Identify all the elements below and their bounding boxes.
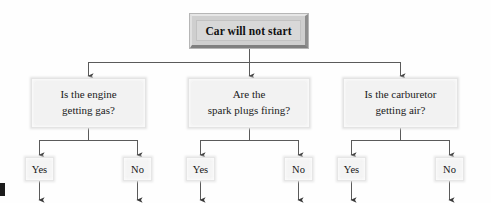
leaf-node-carburetor-no-label: No (443, 164, 456, 175)
question-node-spark-plugs: Are the spark plugs firing? (188, 78, 310, 128)
decision-tree-figure: Car will not start Is the engine getting… (0, 0, 491, 203)
leaf-node-spark-plugs-yes-label: Yes (193, 164, 208, 175)
question-node-engine-gas: Is the engine getting gas? (31, 78, 146, 128)
leaf-node-engine-gas-yes: Yes (25, 157, 54, 181)
question-node-carburetor-air: Is the carburetor getting air? (343, 78, 458, 128)
question-node-engine-gas-line2: getting gas? (62, 103, 115, 119)
page-edge-artifact (0, 183, 5, 196)
question-node-engine-gas-line1: Is the engine (60, 87, 116, 103)
leaf-node-carburetor-yes: Yes (337, 157, 366, 181)
leaf-node-engine-gas-no: No (123, 157, 152, 181)
leaf-node-engine-gas-no-label: No (131, 164, 144, 175)
question-node-spark-plugs-line1: Are the (233, 87, 266, 103)
leaf-node-spark-plugs-no-label: No (292, 164, 305, 175)
leaf-node-spark-plugs-yes: Yes (186, 157, 215, 181)
leaf-node-spark-plugs-no: No (284, 157, 313, 181)
root-node-label: Car will not start (205, 25, 291, 37)
leaf-node-carburetor-yes-label: Yes (344, 164, 359, 175)
root-node-car-will-not-start: Car will not start (190, 14, 308, 48)
question-node-carburetor-air-line2: getting air? (376, 103, 426, 119)
leaf-node-carburetor-no: No (435, 157, 464, 181)
leaf-node-engine-gas-yes-label: Yes (32, 164, 47, 175)
question-node-carburetor-air-line1: Is the carburetor (364, 87, 436, 103)
question-node-spark-plugs-line2: spark plugs firing? (208, 103, 290, 119)
